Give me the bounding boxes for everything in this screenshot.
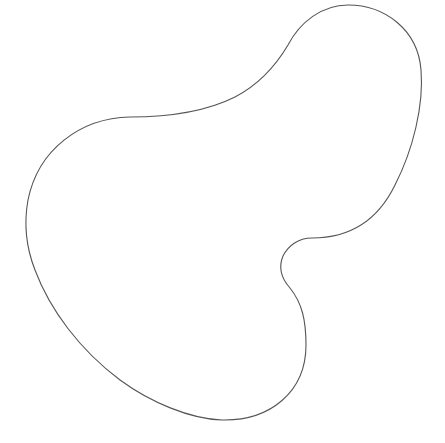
drawing-canvas xyxy=(0,0,445,443)
blob-outline xyxy=(26,5,421,420)
blob-svg xyxy=(0,0,445,443)
